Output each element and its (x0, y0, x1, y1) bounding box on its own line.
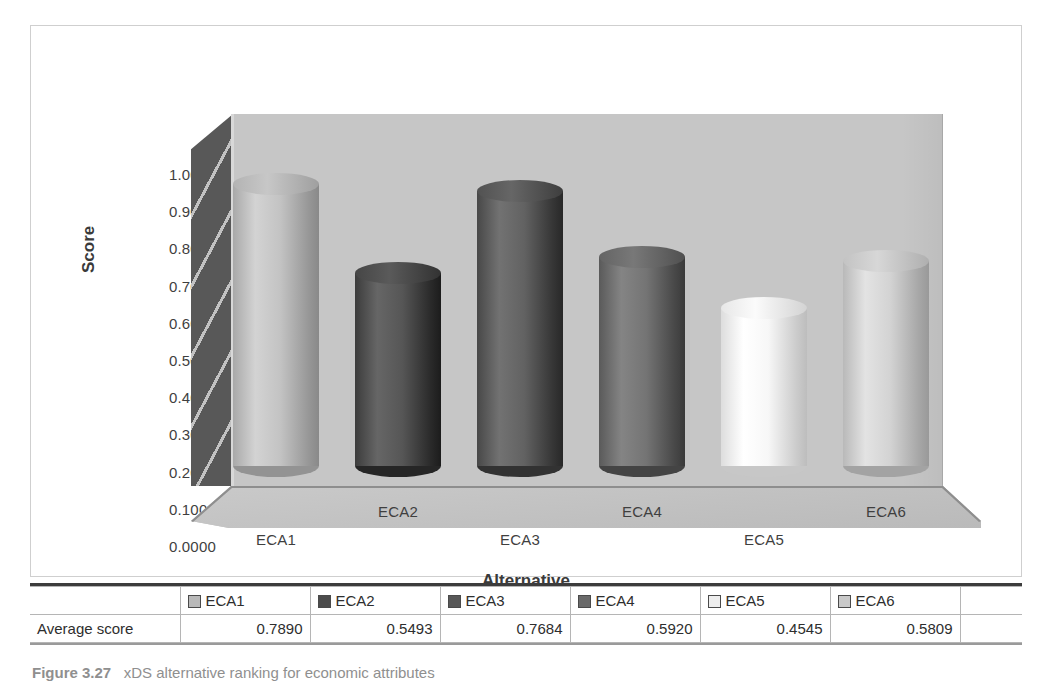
bar-body (843, 261, 929, 466)
figure-caption: Figure 3.27 xDS alternative ranking for … (32, 664, 435, 681)
bar-body (599, 257, 685, 466)
legend-label: ECA3 (466, 592, 505, 609)
bar-eca5 (721, 297, 807, 466)
table-corner-cell (30, 587, 180, 615)
bar-eca3 (477, 180, 563, 466)
legend-item-eca4: ECA4 (570, 587, 700, 615)
legend-item-eca6: ECA6 (830, 587, 960, 615)
table-cell-eca3: 0.7684 (440, 615, 570, 643)
bar-top-ellipse (355, 262, 441, 284)
bar-top-ellipse (599, 246, 685, 268)
x-axis-tick-eca6: ECA6 (866, 503, 906, 520)
x-axis-tick-eca5: ECA5 (744, 531, 784, 548)
plot-area (171, 86, 1001, 516)
table-cell-eca2: 0.5493 (310, 615, 440, 643)
bar-eca6 (843, 250, 929, 466)
chart-frame: Score 1.00000.90000.80000.70000.60000.50… (30, 25, 1022, 577)
bar-body (721, 308, 807, 466)
bar-series (171, 86, 1001, 516)
bar-eca4 (599, 246, 685, 466)
table-cell-eca5: 0.4545 (700, 615, 830, 643)
legend-item-eca5: ECA5 (700, 587, 830, 615)
legend-label: ECA6 (856, 592, 895, 609)
bar-body (233, 184, 319, 467)
legend-swatch-icon (188, 595, 201, 608)
x-axis-tick-eca3: ECA3 (500, 531, 540, 548)
table-bottom-rule (30, 643, 1022, 645)
bar-eca1 (233, 173, 319, 467)
table-row: Average score0.78900.54930.76840.59200.4… (30, 615, 1022, 643)
bar-top-ellipse (843, 250, 929, 272)
x-axis-tick-eca4: ECA4 (622, 503, 662, 520)
table-cell-eca4: 0.5920 (570, 615, 700, 643)
table-row-label: Average score (30, 615, 180, 643)
legend-label: ECA5 (726, 592, 765, 609)
x-axis-tick-eca1: ECA1 (256, 531, 296, 548)
caption-text: xDS alternative ranking for economic att… (124, 664, 435, 681)
legend-item-eca3: ECA3 (440, 587, 570, 615)
legend-swatch-icon (708, 595, 721, 608)
data-table: ECA1ECA2ECA3ECA4ECA5ECA6 Average score0.… (30, 586, 1022, 643)
legend-item-eca2: ECA2 (310, 587, 440, 615)
table-cell-eca1: 0.7890 (180, 615, 310, 643)
legend-item-eca1: ECA1 (180, 587, 310, 615)
y-axis-title: Score (79, 226, 99, 273)
bar-top-ellipse (233, 173, 319, 195)
bar-top-ellipse (721, 297, 807, 319)
caption-label: Figure 3.27 (32, 664, 111, 681)
legend-label: ECA2 (336, 592, 375, 609)
legend-label: ECA4 (596, 592, 635, 609)
table-cell-eca6: 0.5809 (830, 615, 960, 643)
bar-body (355, 273, 441, 466)
legend-swatch-icon (578, 595, 591, 608)
bar-eca2 (355, 262, 441, 466)
table-header-spacer (960, 587, 1022, 615)
x-axis-tick-eca2: ECA2 (378, 503, 418, 520)
bar-body (477, 191, 563, 466)
y-axis-tick-10: 0.0000 (169, 538, 216, 555)
legend-label: ECA1 (206, 592, 245, 609)
table-value-spacer (960, 615, 1022, 643)
table-header-row: ECA1ECA2ECA3ECA4ECA5ECA6 (30, 587, 1022, 615)
legend-swatch-icon (838, 595, 851, 608)
bar-top-ellipse (477, 180, 563, 202)
legend-swatch-icon (318, 595, 331, 608)
legend-swatch-icon (448, 595, 461, 608)
